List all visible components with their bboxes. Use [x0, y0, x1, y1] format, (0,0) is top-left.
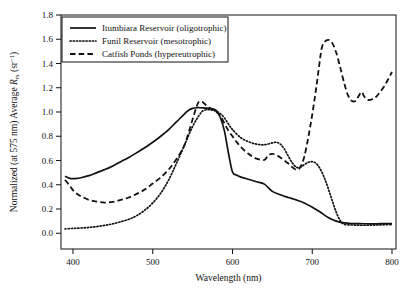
y-tick-label: 0.0	[42, 228, 54, 238]
y-tick-label: 1.0	[42, 107, 54, 117]
x-tick-label: 600	[226, 257, 240, 267]
x-tick-label: 500	[146, 257, 160, 267]
x-tick-label: 400	[66, 257, 80, 267]
y-tick-label: 0.8	[42, 131, 54, 141]
y-tick-label: 1.4	[42, 59, 54, 69]
legend-label-2: Funil Reservoir (mesotrophic)	[102, 36, 211, 46]
x-tick-label: 800	[385, 257, 399, 267]
y-tick-label: 1.6	[42, 34, 54, 44]
x-axis-title: Wavelength (nm)	[196, 273, 262, 284]
y-tick-label: 1.8	[42, 10, 54, 20]
legend-label-1: Itumbiara Reservoir (oligotrophic)	[102, 23, 226, 33]
y-tick-label: 0.4	[42, 180, 54, 190]
x-tick-label: 700	[306, 257, 320, 267]
chart-legend: Itumbiara Reservoir (oligotrophic)Funil …	[62, 17, 228, 62]
spectra-line-chart: 400500600700800 0.00.20.40.60.81.01.21.4…	[0, 0, 415, 294]
y-tick-label: 0.2	[42, 204, 53, 214]
y-tick-label: 1.2	[42, 83, 53, 93]
x-axis-title-text: Wavelength (nm)	[196, 273, 262, 284]
legend-label-3: Catfish Ponds (hypereutrophic)	[102, 49, 215, 59]
y-tick-label: 0.6	[42, 156, 54, 166]
chart-figure: 400500600700800 0.00.20.40.60.81.01.21.4…	[0, 0, 415, 294]
